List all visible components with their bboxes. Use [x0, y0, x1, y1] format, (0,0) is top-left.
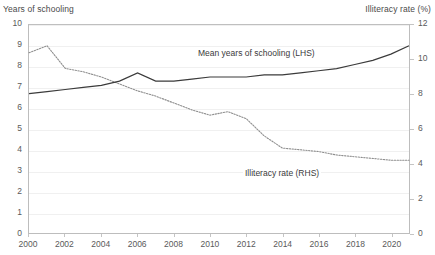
annotation-mean-years-schooling: Mean years of schooling (LHS) [196, 48, 317, 58]
x-tick: 2010 [190, 239, 230, 249]
x-tick: 2020 [372, 239, 412, 249]
y-tick-left: 10 [2, 18, 22, 28]
tick-mark [64, 234, 65, 237]
tick-mark [246, 234, 247, 237]
tick-mark [410, 234, 414, 235]
tick-mark [410, 24, 414, 25]
x-tick: 2014 [263, 239, 303, 249]
x-tick: 2008 [154, 239, 194, 249]
y-tick-left: 1 [2, 207, 22, 217]
y-tick-left: 7 [2, 81, 22, 91]
y-tick-left: 6 [2, 102, 22, 112]
y-tick-left: 0 [2, 228, 22, 238]
tick-mark [355, 234, 356, 237]
y-tick-right: 12 [418, 18, 435, 28]
right-axis-title: Illiteracy rate (%) [365, 4, 431, 14]
y-tick-left: 2 [2, 186, 22, 196]
y-tick-left: 5 [2, 123, 22, 133]
y-tick-right: 2 [418, 193, 435, 203]
y-tick-left: 3 [2, 165, 22, 175]
tick-mark [137, 234, 138, 237]
tick-mark [210, 234, 211, 237]
tick-mark [101, 234, 102, 237]
x-tick: 2000 [8, 239, 48, 249]
tick-mark [283, 234, 284, 237]
y-tick-right: 6 [418, 123, 435, 133]
x-tick: 2006 [117, 239, 157, 249]
illiteracy-rate-line [29, 46, 409, 160]
tick-mark [174, 234, 175, 237]
left-axis-title: Years of schooling [3, 4, 74, 14]
y-tick-left: 4 [2, 144, 22, 154]
tick-mark [410, 164, 414, 165]
y-tick-left: 9 [2, 39, 22, 49]
y-tick-right: 0 [418, 228, 435, 238]
y-tick-right: 8 [418, 88, 435, 98]
tick-mark [410, 199, 414, 200]
annotation-illiteracy-rate: Illiteracy rate (RHS) [243, 168, 321, 178]
x-tick: 2016 [299, 239, 339, 249]
tick-mark [410, 94, 414, 95]
tick-mark [410, 59, 414, 60]
chart-container: Years of schooling Illiteracy rate (%) 1… [0, 0, 435, 255]
tick-mark [392, 234, 393, 237]
tick-mark [410, 129, 414, 130]
x-tick: 2002 [44, 239, 84, 249]
tick-mark [319, 234, 320, 237]
tick-mark [28, 234, 29, 237]
y-tick-right: 4 [418, 158, 435, 168]
y-tick-right: 10 [418, 53, 435, 63]
y-tick-left: 8 [2, 60, 22, 70]
x-tick: 2012 [226, 239, 266, 249]
x-tick: 2004 [81, 239, 121, 249]
x-tick: 2018 [335, 239, 375, 249]
